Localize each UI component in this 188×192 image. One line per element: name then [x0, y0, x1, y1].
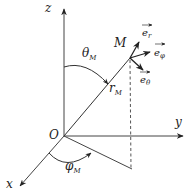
y-axis-label: y — [174, 115, 182, 129]
er-label: er — [142, 25, 152, 40]
x-axis-label: x — [6, 177, 13, 191]
projection-line — [64, 136, 132, 169]
radius-line — [64, 58, 130, 136]
theta-label: θM — [82, 46, 97, 62]
svg-text:eθ: eθ — [140, 74, 151, 87]
radius-label: rM — [109, 81, 123, 97]
svg-text:eφ: eφ — [154, 47, 165, 60]
vertical-dashed-line — [130, 60, 131, 169]
svg-text:er: er — [142, 27, 152, 40]
ephi-label: eφ — [154, 44, 165, 60]
phi-label: φM — [65, 159, 81, 175]
unit-vector-etheta — [130, 58, 143, 70]
z-axis-label: z — [44, 1, 52, 15]
x-axis — [20, 136, 64, 186]
spherical-coordinates-diagram: z y x O M θM rM φM er eφ eθ — [0, 0, 188, 192]
origin-label: O — [49, 128, 59, 142]
point-m-label: M — [113, 36, 127, 50]
theta-arc — [64, 65, 108, 84]
etheta-label: eθ — [140, 72, 151, 87]
